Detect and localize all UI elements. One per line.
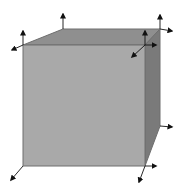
arrow-icon-back-top-right-right (160, 29, 172, 31)
arrow-icon-back-bottom-right-right (160, 126, 172, 127)
arrow-icon-front-bottom-right-out (139, 166, 145, 182)
cube-diagram (0, 0, 182, 189)
arrow-icon-front-bottom-left-out (11, 166, 23, 180)
arrow-icon-front-top-left-out (12, 45, 23, 50)
cube-top-face (23, 29, 160, 45)
cube-right-face (145, 29, 160, 166)
cube-front-face (23, 45, 145, 166)
